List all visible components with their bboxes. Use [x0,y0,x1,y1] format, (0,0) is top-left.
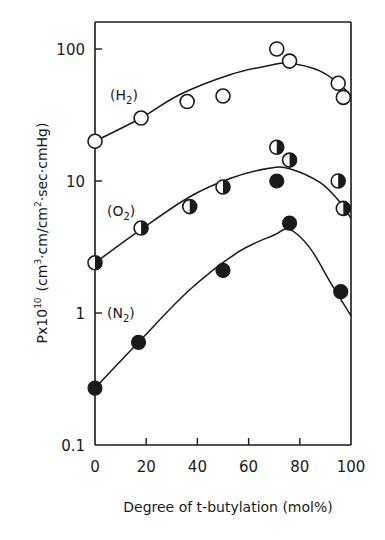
x-axis-ticks [146,438,300,445]
data-point-half-filled-circle [331,174,345,188]
data-point-half-filled-circle [88,256,102,270]
y-axis-tick-labels: 0.1110100 [56,41,85,455]
x-tick-label: 80 [290,458,309,476]
data-point-half-filled-circle [336,201,350,215]
data-point-filled-circle [132,335,146,349]
y-tick-label: 10 [66,173,85,191]
series-label-n2: (N2) [107,305,135,324]
series-label-h2: (H2) [110,87,138,106]
data-point-open-circle [134,111,148,125]
y-tick-label: 0.1 [61,437,85,455]
data-point-half-filled-circle [270,140,284,154]
data-point-half-filled-circle [183,200,197,214]
data-point-half-filled-circle [283,153,297,167]
permeability-chart: 0.1110100 020406080100 (H2) (O2) (N2) De… [0,0,385,540]
y-axis-ticks [95,49,102,313]
data-point-open-circle [180,95,194,109]
data-point-filled-circle [334,285,348,299]
plot-frame [95,22,351,445]
data-point-open-circle [270,42,284,56]
data-point-open-circle [88,134,102,148]
y-tick-label: 1 [75,305,85,323]
data-point-open-circle [216,89,230,103]
data-point-half-filled-circle [134,221,148,235]
data-point-open-circle [336,90,350,104]
data-point-half-filled-circle [216,180,230,194]
x-tick-label: 20 [137,458,156,476]
y-tick-label: 100 [56,41,85,59]
x-tick-label: 60 [239,458,258,476]
data-point-open-circle [331,76,345,90]
data-point-filled-circle [283,216,297,230]
data-point-open-circle [283,54,297,68]
data-point-filled-circle [216,263,230,277]
data-point-filled-circle [270,174,284,188]
y-axis-title: Px1010(cm3·cm/cm2·sec·cmHg) [33,123,50,344]
x-tick-label: 40 [188,458,207,476]
series-label-o2: (O2) [107,203,135,222]
x-tick-label: 0 [90,458,100,476]
x-axis-title: Degree of t-butylation (mol%) [123,499,332,515]
x-axis-tick-labels: 020406080100 [90,458,365,476]
x-tick-label: 100 [337,458,366,476]
data-point-filled-circle [88,381,102,395]
